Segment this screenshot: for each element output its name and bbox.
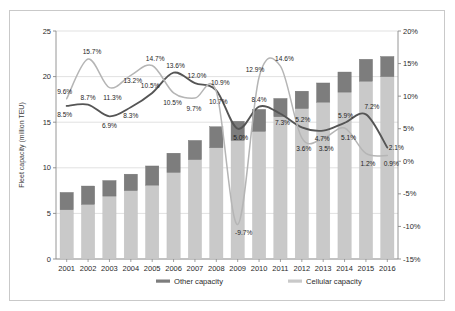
data-label-other-capacity-growth: 8.5% [57,111,72,118]
bar-other-capacity [167,153,180,172]
axis-x-tick-label: 2006 [165,264,182,273]
axis-right-tick-label: -15% [403,255,421,264]
axis-x-tick-label: 2015 [358,264,375,273]
y-axis-title: Fleet capacity (million TEU) [18,102,26,187]
axis-x-tick-label: 2010 [251,264,268,273]
data-label-other-capacity-growth: 13.6% [166,62,185,69]
data-label-other-capacity-growth: 2.1% [389,144,404,151]
axis-right-tick-label: 15% [403,59,418,68]
data-label-cellular-capacity-growth: 5.1% [341,134,356,141]
axis-left-tick-label: 20 [43,72,51,81]
axis-right-tick-label: 10% [403,92,418,101]
data-label-other-capacity-growth: 8.7% [81,94,96,101]
axis-x-tick-label: 2009 [229,264,246,273]
data-label-cellular-capacity-growth: 3.6% [296,145,311,152]
axis-x-tick-label: 2016 [379,264,396,273]
data-label-cellular-capacity-growth: 14.7% [146,55,165,62]
axis-left-tick-label: 5 [47,209,51,218]
axis-left-tick-label: 15 [43,118,51,127]
data-label-cellular-capacity-growth: 10.7% [209,98,228,105]
data-label-other-capacity-growth: 7.3% [275,119,290,126]
chart-canvas: 0510152025-15%-10%-5%0%5%10%15%20%Fleet … [10,11,446,302]
bar-cellular-capacity [188,160,201,259]
data-label-cellular-capacity-growth: 10.5% [163,99,182,106]
bar-cellular-capacity [252,131,265,259]
data-label-other-capacity-growth: 10.9% [211,79,230,86]
bar-other-capacity [359,59,372,81]
bar-cellular-capacity [274,117,287,259]
bar-cellular-capacity [231,140,244,259]
bar-other-capacity [295,91,308,108]
data-label-other-capacity-growth: 6.9% [102,122,117,129]
axis-x-tick-label: 2013 [315,264,332,273]
data-label-cellular-capacity-growth: -9.7% [235,229,252,236]
bar-cellular-capacity [295,109,308,259]
axis-left-tick-label: 10 [43,163,51,172]
axis-left-tick-label: 25 [43,27,51,36]
bar-other-capacity [381,57,394,77]
axis-right-tick-label: -10% [403,222,421,231]
data-label-cellular-capacity-growth: 12.9% [246,66,265,73]
bar-other-capacity [124,174,137,190]
bar-cellular-capacity [124,191,137,259]
bar-cellular-capacity [60,210,73,259]
data-label-other-capacity-growth: 5.2% [295,116,310,123]
axis-right-tick-label: 0% [403,157,414,166]
axis-x-tick-label: 2008 [208,264,225,273]
axis-x-tick-label: 2012 [293,264,310,273]
axis-x-tick-label: 2002 [80,264,97,273]
bar-other-capacity [188,140,201,159]
data-label-cellular-capacity-growth: 15.7% [83,48,102,55]
axis-x-tick-label: 2014 [336,264,353,273]
legend-swatch [288,280,302,283]
bar-cellular-capacity [81,204,94,259]
chart-container: 0510152025-15%-10%-5%0%5%10%15%20%Fleet … [9,10,445,301]
data-label-cellular-capacity-growth: 1.2% [360,160,375,167]
data-label-cellular-capacity-growth: 14.6% [275,55,294,62]
legend-label: Cellular capacity [306,277,362,286]
legend-label: Other capacity [174,277,223,286]
bar-other-capacity [60,192,73,209]
axis-right-tick-label: 5% [403,124,414,133]
legend-swatch [156,280,170,283]
data-label-other-capacity-growth: 7.2% [364,103,379,110]
bar-cellular-capacity [381,77,394,259]
data-label-other-capacity-growth: 5.0% [233,134,248,141]
bar-other-capacity [146,166,159,185]
data-label-other-capacity-growth: 8.3% [123,112,138,119]
data-label-other-capacity-growth: 8.4% [252,96,267,103]
axis-x-tick-label: 2007 [187,264,204,273]
axis-x-tick-label: 2003 [101,264,118,273]
bar-other-capacity [338,72,351,92]
data-label-other-capacity-growth: 5.9% [338,112,353,119]
bar-other-capacity [252,109,265,131]
data-label-other-capacity-growth: 10.5% [141,82,160,89]
bar-cellular-capacity [167,172,180,259]
bar-other-capacity [317,83,330,102]
data-label-cellular-capacity-growth: 3.5% [319,145,334,152]
data-label-other-capacity-growth: 4.7% [315,135,330,142]
data-label-cellular-capacity-growth: 11.3% [103,94,121,101]
axis-x-tick-label: 2001 [58,264,75,273]
bar-other-capacity [103,181,116,197]
axis-x-tick-label: 2005 [144,264,161,273]
bar-cellular-capacity [210,148,223,259]
axis-x-tick-label: 2004 [122,264,139,273]
axis-left-tick-label: 0 [47,255,51,264]
data-label-cellular-capacity-growth: 13.2% [123,77,142,84]
data-label-other-capacity-growth: 12.0% [188,72,207,79]
data-label-cellular-capacity-growth: 9.7% [186,105,201,112]
bar-cellular-capacity [317,102,330,259]
axis-x-tick-label: 2011 [272,264,288,273]
data-label-cellular-capacity-growth: 0.9% [384,160,399,167]
bar-cellular-capacity [146,185,159,259]
bar-other-capacity [210,127,223,148]
axis-right-tick-label: 20% [403,27,418,36]
axis-right-tick-label: -5% [403,189,417,198]
data-label-cellular-capacity-growth: 9.6% [57,88,72,95]
bar-cellular-capacity [103,196,116,259]
bar-other-capacity [81,186,94,204]
